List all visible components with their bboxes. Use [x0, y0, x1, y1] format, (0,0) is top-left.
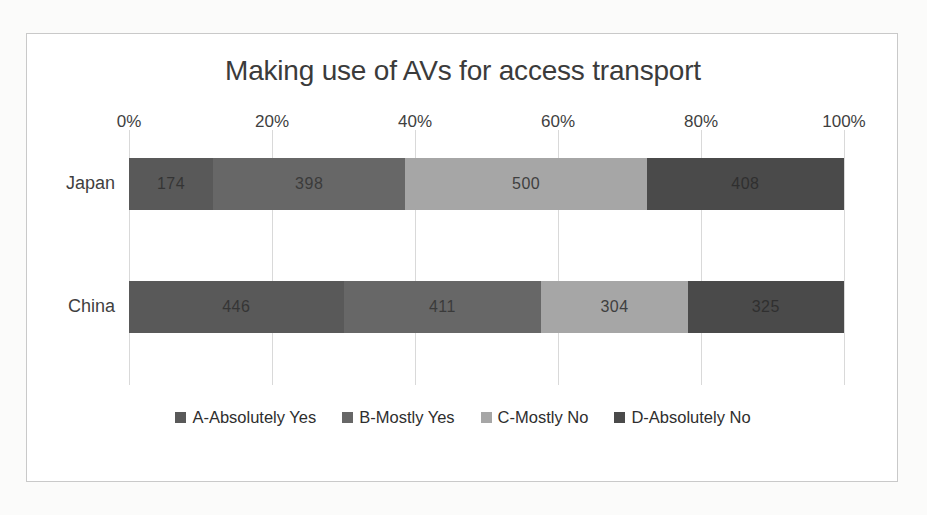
- bar-segment-value-label: 408: [731, 175, 759, 193]
- bar-segment-value-label: 500: [512, 175, 540, 193]
- bar-segment-value-label: 398: [295, 175, 323, 193]
- bar-segment-value-label: 325: [752, 298, 780, 316]
- legend-label: A-Absolutely Yes: [192, 408, 316, 427]
- y-axis-category-label: China: [68, 296, 115, 317]
- bar-row: 174398500408: [129, 158, 844, 210]
- legend-item[interactable]: C-Mostly No: [481, 408, 589, 427]
- bar-segment: 304: [541, 281, 687, 333]
- chart-container: Making use of AVs for access transport 0…: [26, 33, 898, 482]
- legend-item[interactable]: B-Mostly Yes: [342, 408, 454, 427]
- legend-swatch-icon: [175, 412, 186, 423]
- x-axis-tick-label: 60%: [541, 112, 575, 132]
- x-axis-tick-label: 100%: [822, 112, 865, 132]
- y-axis-category-labels: JapanChina: [27, 130, 129, 385]
- bar-segment: 500: [405, 158, 647, 210]
- bar-segment: 174: [129, 158, 213, 210]
- x-axis-tick-label: 40%: [398, 112, 432, 132]
- legend-swatch-icon: [342, 412, 353, 423]
- legend-label: B-Mostly Yes: [359, 408, 454, 427]
- bar-segment: 325: [688, 281, 844, 333]
- bar-segment-value-label: 446: [222, 298, 250, 316]
- legend-label: D-Absolutely No: [631, 408, 750, 427]
- chart-legend: A-Absolutely YesB-Mostly YesC-Mostly NoD…: [27, 408, 899, 427]
- bar-segment-value-label: 304: [600, 298, 628, 316]
- bar-segment: 398: [213, 158, 405, 210]
- x-axis-tick-label: 0%: [117, 112, 142, 132]
- bar-segment: 446: [129, 281, 344, 333]
- x-axis-tick-label: 80%: [684, 112, 718, 132]
- x-axis-tick-label: 20%: [255, 112, 289, 132]
- bar-row: 446411304325: [129, 281, 844, 333]
- chart-title: Making use of AVs for access transport: [27, 55, 899, 87]
- y-axis-category-label: Japan: [66, 173, 115, 194]
- bar-segment: 411: [344, 281, 542, 333]
- legend-swatch-icon: [481, 412, 492, 423]
- legend-swatch-icon: [614, 412, 625, 423]
- bar-segment-value-label: 174: [157, 175, 185, 193]
- gridline: [844, 130, 845, 385]
- legend-label: C-Mostly No: [498, 408, 589, 427]
- bar-segment: 408: [647, 158, 844, 210]
- plot-area: 174398500408446411304325: [129, 130, 844, 385]
- bar-segment-value-label: 411: [429, 298, 456, 316]
- legend-item[interactable]: A-Absolutely Yes: [175, 408, 316, 427]
- legend-item[interactable]: D-Absolutely No: [614, 408, 750, 427]
